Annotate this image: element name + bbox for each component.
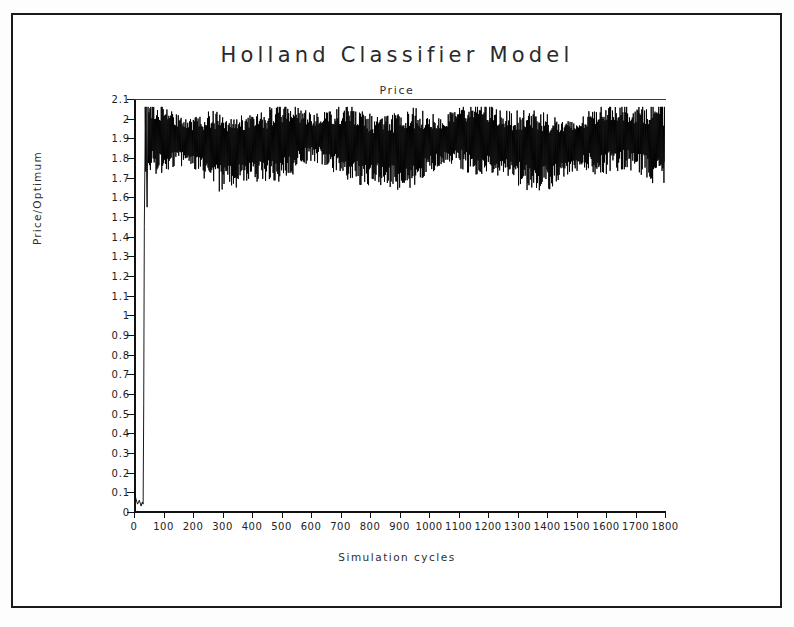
x-tick-label: 1300 [504,521,531,532]
x-tick-label: 1200 [474,521,501,532]
series-path [134,107,665,506]
figure-canvas: Holland Classifier Model Price Price/Opt… [0,0,794,627]
x-tick-label: 1500 [563,521,590,532]
y-axis-title: Price/Optimum [31,151,43,245]
y-tick-label: 0.5 [111,408,130,419]
x-tick-label: 100 [153,521,173,532]
y-tick-label: 1.6 [111,192,130,203]
x-tick-label: 500 [271,521,291,532]
x-tick-label: 200 [183,521,203,532]
x-tick-mark [164,512,165,518]
y-tick-label: 0.3 [111,448,130,459]
x-tick-mark [429,512,430,518]
y-tick-label: 0.9 [111,330,130,341]
y-tick-label: 1.2 [111,271,130,282]
x-tick-mark [577,512,578,518]
x-tick-label: 1800 [651,521,678,532]
x-tick-mark [606,512,607,518]
y-tick-label: 1.9 [111,133,130,144]
y-tick-label: 0.2 [111,467,130,478]
x-tick-label: 400 [242,521,262,532]
x-tick-mark [636,512,637,518]
y-tick-label: 1.8 [111,153,130,164]
x-tick-label: 700 [330,521,350,532]
x-tick-label: 800 [360,521,380,532]
y-tick-label: 1.4 [111,231,130,242]
y-tick-label: 0.7 [111,369,130,380]
y-tick-label: 2.1 [111,94,130,105]
x-tick-mark [311,512,312,518]
y-tick-label: 1.5 [111,212,130,223]
x-tick-mark [134,512,135,518]
y-tick-label: 0 [123,507,130,518]
x-tick-label: 1400 [533,521,560,532]
x-tick-label: 600 [301,521,321,532]
x-tick-mark [400,512,401,518]
y-tick-label: 1.3 [111,251,130,262]
y-tick-label: 0.4 [111,428,130,439]
x-tick-label: 1000 [415,521,442,532]
x-tick-mark [341,512,342,518]
x-tick-label: 900 [389,521,409,532]
y-tick-label: 1 [123,310,130,321]
x-axis-title: Simulation cycles [0,551,794,563]
x-tick-label: 1700 [622,521,649,532]
plot-area: 00.10.20.30.40.50.60.70.80.911.11.21.31.… [134,99,665,512]
x-tick-mark [547,512,548,518]
x-tick-mark [282,512,283,518]
x-tick-mark [459,512,460,518]
x-tick-mark [193,512,194,518]
price-series-line [134,99,665,512]
x-tick-mark [665,512,666,518]
page-title: Holland Classifier Model [0,43,794,67]
x-tick-label: 0 [131,521,138,532]
y-tick-label: 1.1 [111,290,130,301]
y-tick-label: 0.1 [111,487,130,498]
x-tick-mark [488,512,489,518]
y-tick-label: 1.7 [111,172,130,183]
y-tick-label: 0.8 [111,349,130,360]
x-tick-label: 300 [212,521,232,532]
x-tick-mark [223,512,224,518]
x-tick-mark [370,512,371,518]
x-tick-mark [518,512,519,518]
y-tick-label: 0.6 [111,389,130,400]
x-tick-label: 1100 [445,521,472,532]
x-tick-label: 1600 [592,521,619,532]
x-tick-mark [252,512,253,518]
y-tick-label: 2 [123,113,130,124]
